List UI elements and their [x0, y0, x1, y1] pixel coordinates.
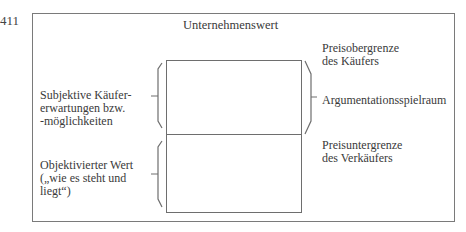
value-bar-divider — [167, 134, 301, 135]
label-objective-value: Objektivierter Wert („wie es steht und l… — [40, 159, 133, 198]
page-number: 411 — [0, 13, 19, 29]
label-seller-price-floor: Preisuntergrenze des Verkäufers — [322, 139, 402, 165]
value-bar — [166, 60, 302, 213]
label-negotiation-range: Argumentationsspielraum — [322, 94, 446, 107]
label-subjective-expectations: Subjektive Käufer- erwartungen bzw. -mög… — [40, 89, 131, 128]
diagram-title: Unternehmenswert — [183, 18, 278, 33]
label-buyer-price-ceiling: Preisobergrenze des Käufers — [322, 42, 399, 68]
